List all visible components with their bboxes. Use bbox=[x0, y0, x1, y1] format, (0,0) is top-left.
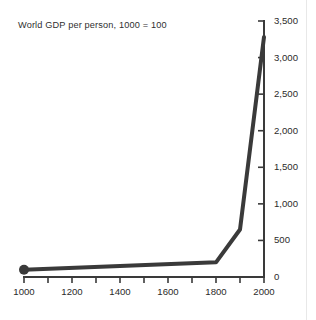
y-axis-tick-label: 2,000 bbox=[274, 125, 298, 136]
y-axis-tick-label: 3,000 bbox=[274, 52, 298, 63]
data-point-markers bbox=[19, 265, 29, 275]
y-axis-tick-label: 1,500 bbox=[274, 161, 298, 172]
x-axis-tick-label: 2000 bbox=[234, 286, 294, 297]
y-axis-tick-label: 0 bbox=[274, 271, 279, 282]
axis-lines bbox=[24, 21, 264, 277]
series-line bbox=[24, 37, 264, 270]
chart-container: World GDP per person, 1000 = 100 05001,0… bbox=[0, 0, 316, 320]
axis-path bbox=[24, 21, 264, 277]
y-axis-tick-label: 2,500 bbox=[274, 88, 298, 99]
y-axis-tick-label: 1,000 bbox=[274, 198, 298, 209]
data-point-marker bbox=[19, 265, 29, 275]
y-axis-tick-label: 500 bbox=[274, 234, 290, 245]
y-axis-tick-label: 3,500 bbox=[274, 15, 298, 26]
plot-area bbox=[0, 0, 316, 320]
data-series-line bbox=[24, 37, 264, 270]
